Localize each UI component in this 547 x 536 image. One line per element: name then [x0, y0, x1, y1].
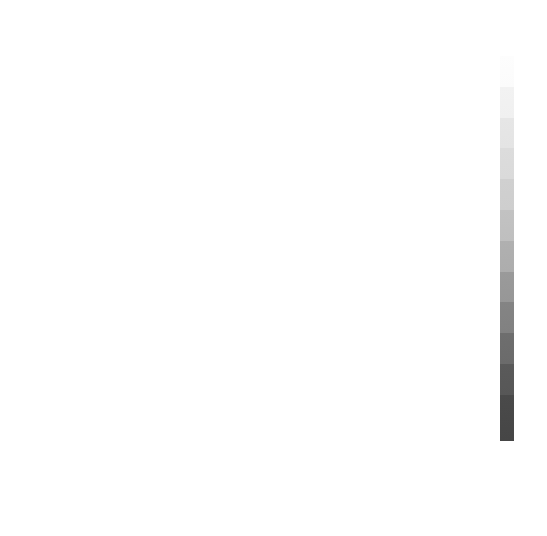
colorbar-gradient: [500, 56, 514, 441]
colorbar-group: [500, 56, 514, 441]
figure-drought-index-maps: [0, 0, 547, 536]
